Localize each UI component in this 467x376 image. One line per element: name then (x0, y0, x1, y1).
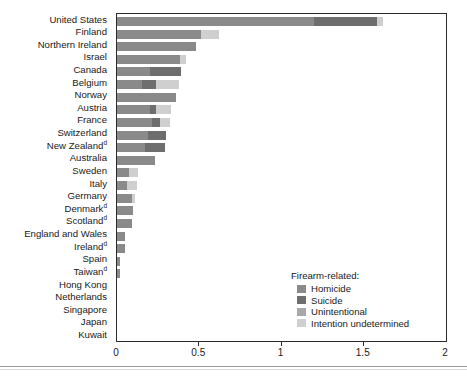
bar-segment-intention-undetermined (156, 105, 171, 114)
value-axis: 00.511.52 (116, 342, 447, 362)
bar-row (117, 118, 170, 127)
category-footnote-marker: d (103, 239, 107, 246)
category-label: Hong Kong (0, 280, 112, 290)
category-label: Taiwand (0, 267, 112, 277)
category-label-text: Austria (77, 102, 107, 113)
category-label: Belgium (0, 78, 112, 88)
bar-segment-suicide (142, 80, 157, 89)
bar-segment-homicide (117, 257, 120, 266)
bar-segment-suicide (148, 131, 166, 140)
legend-swatch-homicide (297, 285, 306, 293)
category-label: Singapore (0, 305, 112, 315)
category-label: Finland (0, 27, 112, 37)
category-label: Austria (0, 103, 112, 113)
bar-segment-intention-undetermined (129, 168, 139, 177)
bar-segment-homicide (117, 156, 155, 165)
axis-tick-label: 0 (113, 347, 119, 358)
bar-row (117, 55, 186, 64)
bar-segment-homicide (117, 219, 132, 228)
category-footnote-marker: d (103, 139, 107, 146)
category-label-text: Sweden (72, 165, 107, 176)
legend-item: Unintentional (297, 306, 441, 318)
category-label-text: Finland (76, 26, 107, 37)
category-label-text: Kuwait (78, 329, 107, 340)
bar-segment-homicide (117, 206, 133, 215)
category-label-text: Norway (74, 89, 107, 100)
legend-title: Firearm-related: (291, 270, 441, 281)
bar-segment-homicide (117, 194, 132, 203)
bar-segment-intention-undetermined (156, 80, 179, 89)
bar-segment-homicide (117, 168, 129, 177)
legend-item: Intention undetermined (297, 318, 441, 330)
category-label: Israel (0, 52, 112, 62)
category-axis-labels: United StatesFinlandNorthern IrelandIsra… (0, 13, 112, 342)
bar-segment-suicide (145, 143, 165, 152)
bar-row (117, 269, 120, 278)
category-label-text: United States (49, 14, 107, 25)
legend-swatch-unintentional (297, 308, 306, 316)
category-label-text: Scotland (66, 215, 103, 226)
legend-label: Intention undetermined (311, 318, 409, 329)
axis-tick (198, 342, 199, 346)
category-label-text: Australia (70, 152, 107, 163)
bar-segment-homicide (117, 118, 152, 127)
legend-label: Unintentional (311, 306, 367, 317)
category-label-text: Singapore (63, 304, 107, 315)
bar-segment-homicide (117, 143, 145, 152)
bar-segment-homicide (117, 67, 150, 76)
bar-segment-homicide (117, 181, 127, 190)
category-label-text: Hong Kong (59, 279, 107, 290)
axis-tick-label: 1 (278, 347, 284, 358)
category-label: Kuwait (0, 330, 112, 340)
category-label: Australia (0, 153, 112, 163)
category-footnote-marker: d (103, 265, 107, 272)
bar-segment-intention-undetermined (160, 118, 170, 127)
category-label: Spain (0, 254, 112, 264)
category-label-text: Italy (89, 178, 107, 189)
bar-segment-homicide (117, 93, 176, 102)
category-label-text: Canada (73, 64, 107, 75)
bar-segment-homicide (117, 232, 125, 241)
bar-row (117, 93, 176, 102)
bar-segment-homicide (117, 17, 314, 26)
category-footnote-marker: d (103, 214, 107, 221)
category-label: United States (0, 15, 112, 25)
category-label-text: England and Wales (24, 228, 107, 239)
bar-segment-homicide (117, 30, 201, 39)
bar-segment-intention-undetermined (201, 30, 219, 39)
category-label-text: Japan (81, 316, 107, 327)
category-label-text: Taiwan (74, 266, 104, 277)
bar-row (117, 30, 219, 39)
category-label: Denmarkd (0, 204, 112, 214)
category-label: Germany (0, 191, 112, 201)
bar-row (117, 143, 165, 152)
bar-segment-suicide (152, 118, 160, 127)
category-label: Canada (0, 65, 112, 75)
bar-row (117, 206, 133, 215)
category-label: Netherlands (0, 292, 112, 302)
bar-segment-homicide (117, 105, 150, 114)
bar-row (117, 181, 137, 190)
category-footnote-marker: d (103, 202, 107, 209)
bar-row (117, 67, 181, 76)
bar-segment-intention-undetermined (127, 181, 137, 190)
bar-segment-homicide (117, 80, 142, 89)
axis-tick-label: 1.5 (356, 347, 370, 358)
category-label-text: Belgium (72, 77, 107, 88)
page-rule-secondary (0, 369, 467, 370)
category-label: Japan (0, 317, 112, 327)
category-label: Irelandd (0, 242, 112, 252)
bar-segment-homicide (117, 244, 125, 253)
bar-row (117, 42, 196, 51)
bar-row (117, 17, 383, 26)
bar-row (117, 168, 138, 177)
category-label-text: Ireland (74, 241, 103, 252)
category-label: Italy (0, 179, 112, 189)
bar-row (117, 156, 155, 165)
axis-tick-label: 2 (442, 347, 448, 358)
bar-segment-homicide (117, 55, 180, 64)
category-label: Norway (0, 90, 112, 100)
legend-label: Suicide (311, 295, 342, 306)
bar-row (117, 80, 179, 89)
axis-tick-label: 0.5 (191, 347, 205, 358)
